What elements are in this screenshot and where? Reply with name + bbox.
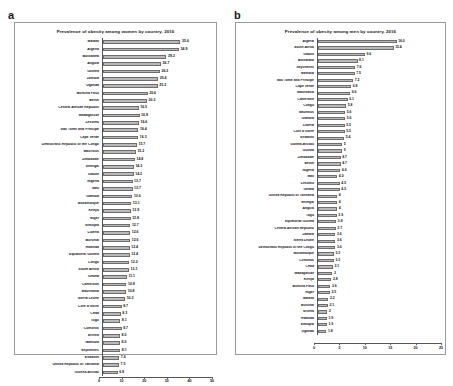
bar <box>103 209 131 213</box>
bar <box>103 106 139 110</box>
bar-row: Equatorial Guinea12.4 <box>19 251 212 258</box>
bar-value-label: 6.9 <box>119 371 124 375</box>
bar-value-label: 16.0 <box>398 40 405 43</box>
bar-track: 12.8 <box>102 215 213 222</box>
bar-value-label: 5.5 <box>346 130 351 133</box>
bar-row: Eritrea8.0 <box>19 332 212 339</box>
bar <box>318 272 333 275</box>
bar-value-label: 16.9 <box>141 114 148 118</box>
bar-value-label: 16.5 <box>140 106 147 110</box>
bar <box>318 111 346 114</box>
bar <box>103 334 121 338</box>
bar-track: 8.7 <box>102 303 213 310</box>
bar-row: Liberia12.6 <box>19 229 212 236</box>
category-label: Zambia <box>19 77 102 81</box>
bar-value-label: 3.8 <box>338 220 343 223</box>
category-label: Mozambique <box>240 252 317 255</box>
category-label: Seychelles <box>19 349 102 353</box>
bar <box>318 323 327 326</box>
bar-row: Ethiopia12.7 <box>19 222 212 229</box>
bar <box>103 246 130 250</box>
bar-row: Zambia25.4 <box>19 75 212 82</box>
bar-track: 34.9 <box>102 46 213 53</box>
bar-track: 15.7 <box>102 141 213 148</box>
bar-row: Uganda25.2 <box>19 82 212 89</box>
bar <box>318 92 351 95</box>
bar-track: 14.2 <box>102 171 213 178</box>
panel-b-axis-spacer <box>240 343 314 352</box>
bar-value-label: 2.8 <box>333 278 338 281</box>
bar <box>103 349 121 353</box>
bar-row: Mauritania10.8 <box>19 288 212 295</box>
bar-value-label: 35.6 <box>182 40 189 44</box>
bar-row: Botswana29.2 <box>19 53 212 60</box>
bar-value-label: 11.1 <box>128 275 135 279</box>
bar-track: 8.1 <box>102 347 213 354</box>
category-label: Kenya <box>240 278 317 281</box>
bar-value-label: 2.6 <box>332 285 337 288</box>
bar-value-label: 15.4 <box>395 46 402 49</box>
bar-track: 16.9 <box>102 112 213 119</box>
bar-track: 16.5 <box>102 105 213 112</box>
bar-track: 12.7 <box>102 222 213 229</box>
bar <box>318 227 336 230</box>
bar-value-label: 8.1 <box>359 59 364 62</box>
axis-tick-label: 10 <box>120 379 124 383</box>
bar <box>103 305 122 309</box>
bar-row: Nigeria13.7 <box>19 178 212 185</box>
panel-a-axis-line-wrap: 01020304050 <box>99 377 212 386</box>
bar-row: Seychelles8.1 <box>19 347 212 354</box>
bar <box>318 59 358 62</box>
axis-tick-label: 0 <box>98 379 100 383</box>
bar-value-label: 1.9 <box>328 317 333 320</box>
bar-value-label: 5.4 <box>346 136 351 139</box>
bar-row: Niger12.8 <box>19 215 212 222</box>
category-label: Botswana <box>19 55 102 59</box>
bar <box>103 312 121 316</box>
bar-track: 14.8 <box>102 156 213 163</box>
category-label: Democratic Republic of the Congo <box>19 143 102 147</box>
bar <box>318 207 338 210</box>
bar-track: 25.4 <box>102 75 213 82</box>
category-label: Uganda <box>240 330 317 333</box>
bar-value-label: 6.1 <box>349 98 354 101</box>
panel-a-chart-title: Prevalence of obesity among women by cou… <box>19 30 212 34</box>
panel-b-bar-rows: Algeria16.0South Africa15.4Gabon9.6Botsw… <box>240 38 441 342</box>
bar-track: 8.0 <box>102 340 213 347</box>
axis-tick-label: 5 <box>338 346 340 350</box>
category-label: Liberia <box>240 124 317 127</box>
category-label: Central African Republic <box>240 227 317 230</box>
category-label: Angola <box>19 62 102 66</box>
bar-row: Mali13.7 <box>19 185 212 192</box>
category-label: Liberia <box>19 231 102 235</box>
bar-value-label: 4 <box>339 194 341 197</box>
bar <box>318 104 347 107</box>
bar-track: 6.9 <box>102 369 213 376</box>
bar-value-label: 4.7 <box>342 156 347 159</box>
panel-b: b Prevalence of obesity among men by cou… <box>226 0 452 364</box>
bar-value-label: 14.8 <box>137 158 144 162</box>
bar <box>318 66 356 69</box>
bar-track: 10.9 <box>102 281 213 288</box>
bar <box>318 188 340 191</box>
category-label: Cameroon <box>19 283 102 287</box>
bar <box>318 85 352 88</box>
bar <box>318 265 333 268</box>
bar-value-label: 13.1 <box>133 202 140 206</box>
bar <box>318 246 336 249</box>
bar-value-label: 7.5 <box>356 72 361 75</box>
bar-value-label: 13.7 <box>134 180 141 184</box>
bar-value-label: 7.2 <box>355 79 360 82</box>
bar <box>103 92 148 96</box>
bar-value-label: 12.8 <box>132 217 139 221</box>
category-label: Ghana <box>240 188 317 191</box>
bar-value-label: 29.2 <box>168 55 175 59</box>
bar <box>318 240 336 243</box>
bar-row: Eswatini7.6 <box>19 354 212 361</box>
bar-track: 12.1 <box>102 266 213 273</box>
bar-row: Guinea-Bissau6.9 <box>19 369 212 376</box>
category-label: Ghana <box>19 275 102 279</box>
axis-tick-label: 20 <box>414 346 418 350</box>
category-label: Mali <box>19 187 102 191</box>
bar-row: Togo8.1 <box>19 317 212 324</box>
